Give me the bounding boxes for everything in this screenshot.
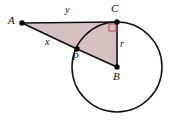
side-label-x: x xyxy=(45,37,49,47)
point-b-dot xyxy=(114,64,119,69)
geometry-figure: A C B P y x r xyxy=(0,0,180,123)
point-a-dot xyxy=(19,20,24,25)
side-label-y: y xyxy=(65,5,69,15)
diagram-canvas xyxy=(0,0,180,123)
side-label-r: r xyxy=(120,39,124,49)
point-label-c: C xyxy=(111,3,118,14)
point-label-b: B xyxy=(113,71,120,82)
point-c-dot xyxy=(114,19,119,24)
point-label-a: A xyxy=(8,15,15,26)
point-label-p: P xyxy=(72,51,79,62)
segment-ac xyxy=(22,22,117,23)
